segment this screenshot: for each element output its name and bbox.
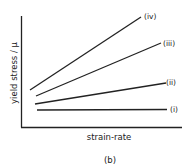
y-axis-label: yield stress / μ: [9, 41, 19, 104]
label-iii: (iii): [163, 39, 175, 48]
line-iii: [36, 43, 161, 96]
line-i: [37, 110, 167, 111]
label-ii: (ii): [166, 78, 176, 87]
figure-caption: (b): [104, 155, 116, 165]
chart: yield stress / μ strain-rate (b) (iv) (i…: [0, 0, 188, 167]
label-i: (i): [170, 105, 178, 114]
line-ii: [35, 83, 166, 104]
label-iv: (iv): [144, 12, 156, 21]
line-iv: [30, 17, 141, 90]
x-axis-label: strain-rate: [87, 132, 132, 142]
